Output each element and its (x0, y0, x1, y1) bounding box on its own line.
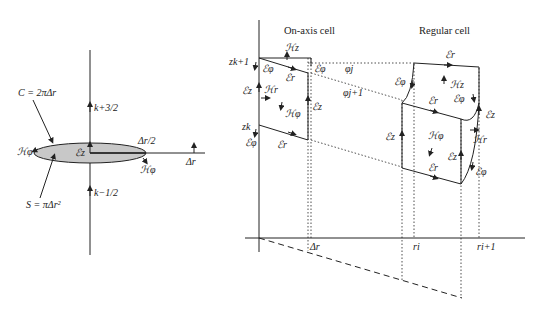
rc-er-mid: ℰr (428, 96, 438, 106)
hphi-left-label: ℋφ (17, 147, 33, 157)
oa-ephi-c: ℰφ (245, 138, 257, 148)
rc-hr: ℋr (473, 135, 487, 145)
zk-label: zk (242, 122, 250, 132)
rc-ez-left: ℰz (385, 132, 395, 142)
regular-title: Regular cell (419, 25, 470, 36)
on-axis-title: On-axis cell (284, 25, 335, 36)
rc-ephi-right: ℰφ (453, 94, 465, 104)
k-upper-label: k+3/2 (94, 103, 118, 113)
zk1-label: zk+1 (229, 57, 249, 67)
rc-hz: ℋz (450, 80, 464, 90)
phi-j1-label: φj+1 (343, 88, 363, 98)
dr-label: Δr (186, 157, 196, 167)
area-label: S = πΔr² (26, 200, 61, 210)
oa-er-b: ℰr (277, 140, 287, 150)
rc-hphi: ℋφ (428, 131, 444, 141)
oa-ez-right: ℰz (312, 102, 322, 112)
rc-ephi-left: ℰφ (394, 77, 406, 87)
oa-ephi-a: ℰφ (262, 64, 274, 74)
dr-axis-label: Δr (310, 242, 320, 252)
oa-ephi-b: ℰφ (314, 64, 326, 74)
hphi-right-label: ℋφ (140, 165, 156, 175)
half-dr-label: Δr/2 (138, 136, 156, 146)
rc-er-top: ℰr (445, 50, 455, 60)
oa-hphi: ℋφ (285, 109, 301, 119)
ri-label: ri (413, 242, 420, 252)
oa-hz: ℋz (285, 43, 299, 53)
circumference-label: C = 2πΔr (18, 88, 56, 98)
rc-ephi-bottom: ℰφ (475, 167, 487, 177)
ez-label: ℰz (75, 148, 85, 158)
oa-hr: ℋr (264, 85, 278, 95)
oa-ez-left: ℰz (242, 86, 252, 96)
oa-er-a: ℰr (285, 73, 295, 83)
k-lower-label: k−1/2 (94, 188, 118, 198)
phi-j-label: φj (345, 64, 353, 74)
rc-ez-front: ℰz (447, 152, 457, 162)
ri1-label: ri+1 (477, 242, 495, 252)
rc-er-bottom: ℰr (428, 163, 438, 173)
rc-ez-far: ℰz (485, 110, 495, 120)
